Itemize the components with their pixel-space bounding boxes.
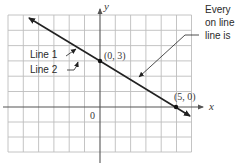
line-1-label: Line 1 (30, 49, 58, 60)
annotation-line-2: on line (205, 17, 235, 28)
point-5-0 (174, 105, 178, 109)
annotation-line-1: Every (205, 4, 231, 15)
origin-label: 0 (90, 110, 95, 121)
coordinate-diagram: x y 0 (0, 3) (5, 0) Line 1 Line 2 Every … (0, 0, 237, 166)
line-2-label: Line 2 (30, 64, 58, 75)
point-0-3-label: (0, 3) (104, 50, 126, 62)
annotation-pointer (139, 35, 199, 77)
graph-canvas: x y 0 (0, 3) (5, 0) Line 1 Line 2 Every … (0, 0, 237, 166)
x-axis-label: x (208, 100, 214, 112)
line-2-pointer (67, 62, 78, 70)
point-5-0-label: (5, 0) (174, 91, 196, 103)
y-axis-label: y (103, 0, 109, 12)
line-1-pointer (66, 49, 76, 56)
annotation-line-3: line is (205, 30, 231, 41)
point-0-3 (98, 59, 102, 63)
